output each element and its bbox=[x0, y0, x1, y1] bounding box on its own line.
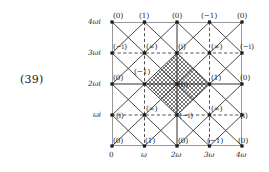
x-tick-w: ω bbox=[141, 150, 147, 159]
node-label-3-0: (−1) bbox=[207, 136, 223, 145]
node-label-3-2: (1) bbox=[211, 73, 221, 82]
node-label-2-3: (i) bbox=[178, 42, 186, 51]
node-label-1-0: (1) bbox=[145, 136, 155, 145]
node-label-2-0: (0) bbox=[178, 136, 188, 145]
node-label-2-1: (−i) bbox=[179, 111, 193, 120]
node-label-3-4: (−1) bbox=[201, 11, 217, 20]
figure-root: (39) bbox=[0, 0, 269, 172]
x-tick-2w: 2ω bbox=[171, 150, 181, 159]
lattice-diagram bbox=[0, 0, 269, 172]
node-label-4-3: (−i) bbox=[240, 42, 254, 51]
node-label-1-3: (∞) bbox=[146, 42, 158, 51]
node-label-1-2: (−1) bbox=[134, 67, 150, 76]
node-label-4-0: (0) bbox=[238, 136, 248, 145]
y-tick-3wi: 3ωi bbox=[88, 48, 101, 57]
node-label-2-4: (0) bbox=[172, 11, 182, 20]
y-tick-2wi: 2ωi bbox=[88, 79, 101, 88]
y-tick-4wi: 4ωi bbox=[88, 17, 101, 26]
node-label-4-4: (0) bbox=[237, 11, 247, 20]
node-label-0-3: (−i) bbox=[113, 42, 127, 51]
x-tick-4w: 4ω bbox=[236, 150, 246, 159]
node-label-0-4: (0) bbox=[113, 11, 123, 20]
node-label-0-1: (i) bbox=[116, 111, 124, 120]
node-label-0-0: (0) bbox=[113, 136, 123, 145]
node-label-1-1: (∞) bbox=[146, 104, 158, 113]
node-label-4-2: (0) bbox=[240, 73, 250, 82]
node-label-1-4: (1) bbox=[139, 11, 149, 20]
y-tick-wi: ωi bbox=[93, 110, 101, 119]
node-label-0-2: (0) bbox=[113, 73, 123, 82]
x-tick-3w: 3ω bbox=[204, 150, 214, 159]
node-label-2-2: (0) bbox=[178, 80, 188, 89]
node-label-3-1: (∞) bbox=[211, 104, 223, 113]
node-label-3-3: (∞) bbox=[211, 42, 223, 51]
node-label-4-1: (i) bbox=[240, 111, 248, 120]
x-tick-0: 0 bbox=[109, 150, 114, 159]
